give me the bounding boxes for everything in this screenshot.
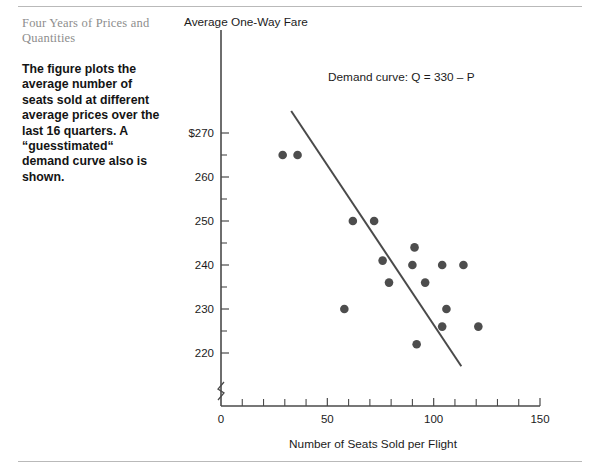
data-point bbox=[293, 151, 302, 160]
bottom-divider-rule bbox=[18, 461, 582, 462]
x-axis-ticks: 050100150 bbox=[218, 398, 550, 425]
y-axis-label: Average One-Way Fare bbox=[184, 15, 308, 29]
data-point bbox=[438, 322, 447, 331]
demand-curve bbox=[291, 111, 461, 366]
data-point bbox=[474, 322, 483, 331]
caption-column: Four Years of Prices and Quantities The … bbox=[22, 16, 162, 185]
data-point bbox=[385, 278, 394, 287]
data-point bbox=[349, 217, 358, 226]
x-tick-label: 50 bbox=[321, 413, 334, 425]
data-points bbox=[278, 151, 482, 349]
y-tick-label: 240 bbox=[195, 259, 214, 271]
data-point bbox=[438, 261, 447, 270]
caption-body: The figure plots the average number of s… bbox=[22, 62, 162, 185]
x-tick-label: 0 bbox=[218, 413, 224, 425]
caption-title: Four Years of Prices and Quantities bbox=[22, 16, 162, 46]
y-tick-label: 230 bbox=[195, 303, 214, 315]
data-point bbox=[278, 151, 287, 160]
y-axis-ticks: $270260250240230220 bbox=[188, 127, 229, 359]
y-tick-label: $270 bbox=[188, 127, 214, 139]
demand-curve-label: Demand curve: Q = 330 – P bbox=[328, 70, 475, 84]
demand-curve-line bbox=[291, 111, 461, 366]
data-point bbox=[408, 261, 417, 270]
top-divider-rule bbox=[18, 6, 582, 7]
y-tick-label: 220 bbox=[195, 347, 214, 359]
data-point bbox=[410, 243, 419, 252]
x-tick-label: 100 bbox=[424, 413, 443, 425]
data-point bbox=[421, 278, 430, 287]
x-tick-label: 150 bbox=[530, 413, 549, 425]
figure-page: Four Years of Prices and Quantities The … bbox=[0, 0, 600, 472]
data-point bbox=[378, 256, 387, 265]
data-point bbox=[340, 305, 349, 314]
y-tick-label: 260 bbox=[195, 171, 214, 183]
scatter-chart: Average One-Way Fare $270260250240230220… bbox=[168, 8, 592, 458]
y-tick-label: 250 bbox=[195, 215, 214, 227]
x-axis-label: Number of Seats Sold per Flight bbox=[289, 437, 458, 451]
data-point bbox=[459, 261, 468, 270]
axis-break-icon bbox=[218, 382, 224, 400]
data-point bbox=[442, 305, 451, 314]
data-point bbox=[370, 217, 379, 226]
data-point bbox=[412, 340, 421, 349]
chart-svg: Average One-Way Fare $270260250240230220… bbox=[168, 8, 592, 458]
